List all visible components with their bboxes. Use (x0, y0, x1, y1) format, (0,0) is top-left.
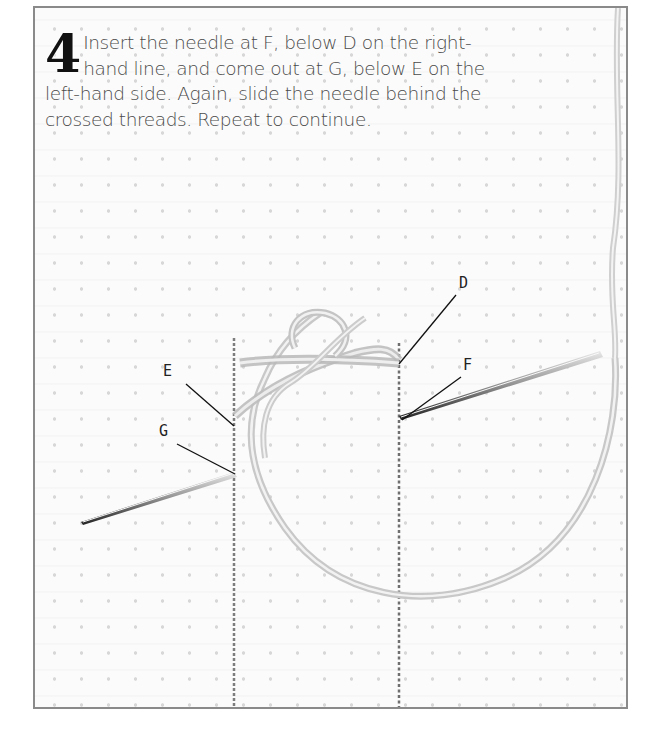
instruction-panel: 4Insert the needle at F, below D on the … (33, 6, 628, 709)
needle-left (81, 472, 237, 525)
thread-top-right (612, 8, 619, 358)
step-instruction: 4Insert the needle at F, below D on the … (45, 30, 485, 132)
label-f: F (463, 356, 472, 374)
label-g: G (159, 422, 168, 440)
leader-lines (177, 295, 461, 474)
step-number: 4 (45, 32, 79, 76)
label-e: E (163, 362, 172, 380)
label-d: D (459, 274, 468, 292)
step-text: Insert the needle at F, below D on the r… (45, 32, 485, 130)
needle-right (399, 351, 603, 420)
